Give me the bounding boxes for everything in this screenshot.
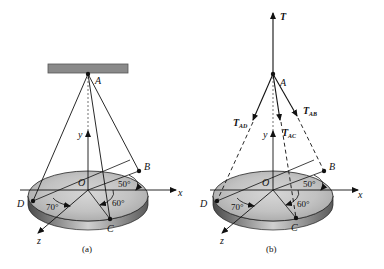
label-C: C xyxy=(291,222,298,233)
label-B: B xyxy=(144,161,150,172)
label-z: z xyxy=(219,235,224,246)
label-T: T xyxy=(280,11,287,22)
point-B xyxy=(137,169,141,173)
label-y: y xyxy=(262,129,268,140)
label-A: A xyxy=(94,75,102,86)
label-D: D xyxy=(16,198,25,209)
point-C xyxy=(108,217,112,221)
label-D: D xyxy=(199,198,208,209)
angle-label-50: 50° xyxy=(118,179,131,189)
point-B xyxy=(322,169,326,173)
point-D xyxy=(31,199,35,203)
label-y: y xyxy=(77,129,83,140)
point-D xyxy=(215,199,219,203)
label-O: O xyxy=(78,177,85,188)
force-T-AD-arrow xyxy=(253,74,273,120)
label-T-AD: TAD xyxy=(233,117,248,129)
ceiling-support xyxy=(48,64,128,73)
label-x: x xyxy=(357,189,363,200)
figure-a: A B C D O x y z 50° 60° 70° (a) xyxy=(16,64,183,254)
label-O: O xyxy=(262,177,269,188)
angle-label-70: 70° xyxy=(231,202,244,212)
caption-a: (a) xyxy=(82,244,92,254)
label-x: x xyxy=(177,187,183,198)
label-A: A xyxy=(279,77,287,88)
angle-label-50: 50° xyxy=(303,179,316,189)
angle-label-70: 70° xyxy=(46,202,59,212)
caption-b: (b) xyxy=(266,244,277,254)
label-C: C xyxy=(107,223,114,234)
angle-label-60: 60° xyxy=(297,199,310,209)
angle-label-60: 60° xyxy=(112,198,125,208)
statics-diagram: A B C D O x y z 50° 60° 70° (a) xyxy=(0,0,384,269)
point-A xyxy=(86,72,90,76)
point-A xyxy=(271,72,275,76)
label-z: z xyxy=(36,235,41,246)
point-C xyxy=(294,216,298,220)
figure-b: T A B C D O x y z TAD TAC TAB 50° 60° 70… xyxy=(199,11,363,254)
label-B: B xyxy=(329,161,335,172)
label-T-AC: TAC xyxy=(282,127,297,139)
label-T-AB: TAB xyxy=(303,105,317,117)
cable-AB-dashed xyxy=(298,118,324,171)
